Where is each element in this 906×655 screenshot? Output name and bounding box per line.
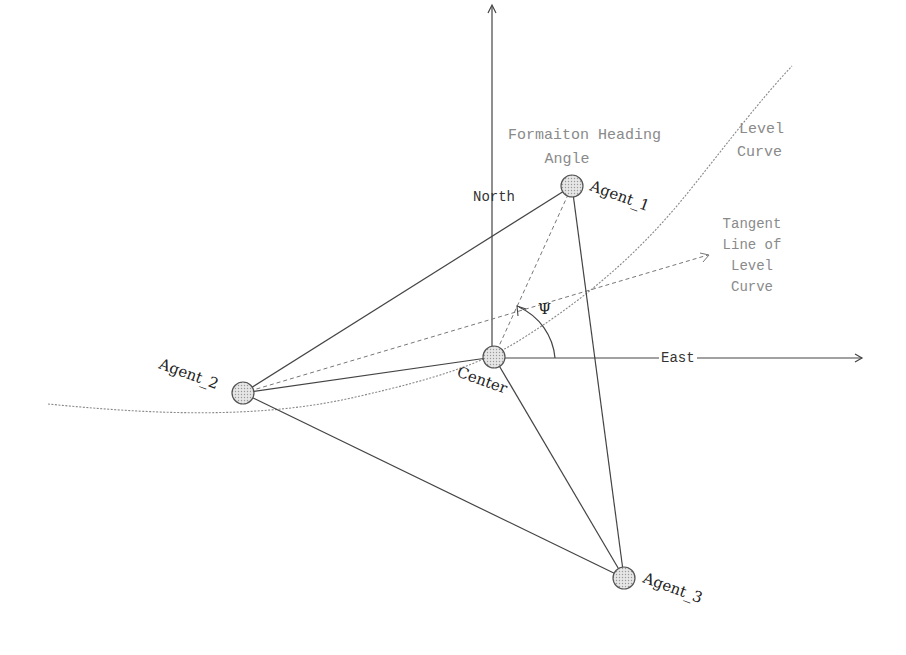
tangent-label-line4: Curve [731, 279, 773, 295]
heading-line [494, 186, 572, 357]
psi-symbol: Ψ [538, 300, 551, 318]
tangent-label-line2: Line of [723, 237, 782, 253]
agent-2-node [232, 382, 254, 404]
agent-1-node [561, 175, 583, 197]
tangent-label-line1: Tangent [723, 216, 782, 232]
center-node [483, 346, 505, 368]
level-curve-label-line1: Level [739, 121, 784, 138]
tangent-label-line3: Level [731, 258, 773, 274]
center-label: Center [455, 363, 511, 398]
agent-3-node [613, 567, 635, 589]
heading-angle-label-line1: Formaiton Heading [508, 127, 661, 144]
level-curve-label-line2: Curve [737, 144, 782, 161]
tangent-arrow-icon [700, 253, 709, 262]
agent-1-label: Agent_1 [587, 177, 652, 215]
agent-2-label: Agent_2 [156, 355, 221, 393]
formation-diagram: North East Formaiton Heading Angle Level… [0, 0, 906, 655]
agent-3-label: Agent_3 [640, 569, 705, 607]
heading-angle-label-line2: Angle [544, 151, 589, 168]
east-label: East [661, 350, 695, 366]
north-label: North [473, 189, 515, 205]
formation-edges [243, 186, 624, 578]
north-axis [488, 5, 496, 357]
